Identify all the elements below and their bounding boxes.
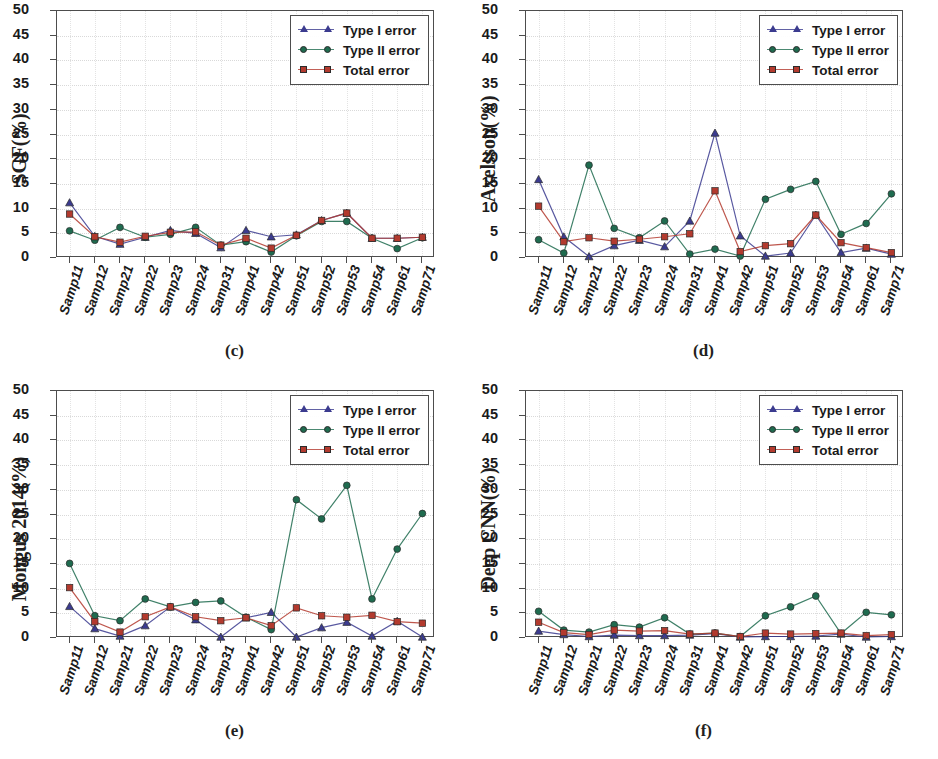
data-point <box>418 633 426 640</box>
y-tick-mark <box>519 257 525 258</box>
data-point <box>712 246 719 253</box>
legend-label: Total error <box>343 63 410 78</box>
x-tick-mark <box>764 257 765 263</box>
y-tick-mark <box>519 208 525 209</box>
y-tick-label: 5 <box>0 603 29 619</box>
plot-area: Type I errorType II errorTotal error <box>56 390 434 637</box>
x-tick-mark <box>119 637 120 643</box>
data-point <box>561 238 567 244</box>
data-point <box>736 232 744 239</box>
y-tick-mark <box>50 588 56 589</box>
data-point <box>192 599 199 606</box>
data-point <box>419 234 425 240</box>
data-point <box>66 560 73 567</box>
legend: Type I errorType II errorTotal error <box>759 395 898 465</box>
x-tick-mark <box>245 637 246 643</box>
y-tick-label: 45 <box>0 406 29 422</box>
x-tick-mark <box>396 637 397 643</box>
panel-caption-text: (f) <box>695 721 712 740</box>
y-tick-mark <box>50 563 56 564</box>
y-tick-label: 15 <box>464 554 498 570</box>
x-tick-mark <box>144 637 145 643</box>
data-point <box>368 632 376 639</box>
legend-item-total: Total error <box>765 60 889 80</box>
data-point <box>737 633 743 639</box>
legend-marker-icon <box>296 43 336 57</box>
x-tick-mark <box>538 637 539 643</box>
y-tick-label: 45 <box>0 26 29 42</box>
y-tick-mark <box>519 59 525 60</box>
chart-panel-d: Axelsson(%)Type I errorType II errorTota… <box>469 0 938 379</box>
legend: Type I errorType II errorTotal error <box>290 395 429 465</box>
y-tick-mark <box>519 415 525 416</box>
data-point <box>369 235 375 241</box>
x-tick-mark <box>421 637 422 643</box>
data-point <box>218 242 224 248</box>
y-tick-mark <box>50 183 56 184</box>
data-point <box>192 229 198 235</box>
data-point <box>92 234 98 240</box>
data-point <box>142 614 148 620</box>
legend-marker-icon <box>296 63 336 77</box>
y-tick-label: 25 <box>464 125 498 141</box>
y-tick-mark <box>50 612 56 613</box>
data-point <box>762 196 769 203</box>
data-point <box>586 631 592 637</box>
y-tick-label: 40 <box>464 430 498 446</box>
data-point <box>318 516 325 523</box>
legend: Type I errorType II errorTotal error <box>759 15 898 85</box>
x-tick-mark <box>890 637 891 643</box>
data-point <box>762 630 768 636</box>
y-tick-mark <box>519 109 525 110</box>
y-tick-mark <box>50 109 56 110</box>
x-tick-mark <box>638 257 639 263</box>
x-tick-mark <box>739 257 740 263</box>
y-tick-label: 30 <box>464 480 498 496</box>
data-point <box>560 250 567 257</box>
x-tick-mark <box>840 257 841 263</box>
data-point <box>535 203 541 209</box>
y-tick-mark <box>519 464 525 465</box>
data-point <box>586 235 592 241</box>
x-tick-mark <box>588 257 589 263</box>
data-point <box>712 188 718 194</box>
data-point <box>293 496 300 503</box>
x-tick-mark <box>890 257 891 263</box>
legend-label: Type II error <box>812 43 889 58</box>
data-point <box>66 211 72 217</box>
x-tick-mark <box>563 257 564 263</box>
x-tick-mark <box>270 637 271 643</box>
x-tick-mark <box>613 257 614 263</box>
legend-item-type-ii: Type II error <box>296 40 420 60</box>
data-point <box>686 251 693 258</box>
data-point <box>863 244 869 250</box>
data-point <box>242 226 250 233</box>
legend-label: Type I error <box>343 403 416 418</box>
plot-area: Type I errorType II errorTotal error <box>56 10 434 257</box>
x-tick-mark <box>295 637 296 643</box>
y-tick-label: 25 <box>0 505 29 521</box>
chart-panel-c: SGF(%)Type I errorType II errorTotal err… <box>0 0 469 379</box>
y-tick-mark <box>519 232 525 233</box>
y-tick-label: 40 <box>464 50 498 66</box>
y-tick-mark <box>519 588 525 589</box>
data-point <box>888 611 895 618</box>
x-tick-mark <box>664 637 665 643</box>
x-tick-mark <box>865 257 866 263</box>
legend-marker-icon <box>296 23 336 37</box>
panel-caption-e: (e) <box>0 721 469 741</box>
legend-marker-icon <box>765 443 805 457</box>
x-tick-mark <box>270 257 271 263</box>
plot-area: Type I errorType II errorTotal error <box>525 10 903 257</box>
legend-item-type-i: Type I error <box>765 400 889 420</box>
legend-label: Total error <box>812 63 879 78</box>
x-tick-mark <box>169 257 170 263</box>
y-tick-label: 5 <box>464 603 498 619</box>
y-tick-label: 40 <box>0 430 29 446</box>
data-point <box>243 235 249 241</box>
data-point <box>218 618 224 624</box>
x-tick-mark <box>421 257 422 263</box>
data-point <box>636 236 642 242</box>
data-point <box>813 630 819 636</box>
y-tick-label: 35 <box>0 75 29 91</box>
